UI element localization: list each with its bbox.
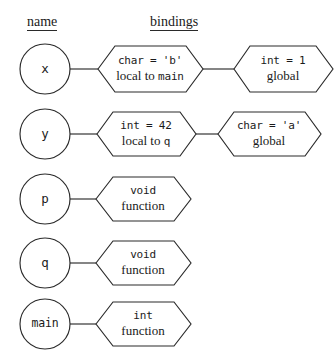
- binding-y-0-scope: local to q: [120, 133, 171, 149]
- binding-p-0-scope: function: [121, 198, 164, 213]
- binding-x-1-type: int = 1: [261, 55, 306, 68]
- column-header-name: name: [27, 14, 57, 31]
- binding-main-0-type: int: [121, 310, 164, 323]
- binding-x-0-scope: local to main: [116, 68, 184, 84]
- binding-q-0-scope: function: [121, 262, 164, 277]
- column-header-bindings: bindings: [150, 14, 198, 31]
- node-label-p: p: [41, 193, 49, 206]
- binding-q-0-type: void: [121, 249, 164, 262]
- binding-main-0-text: int function: [121, 310, 164, 338]
- binding-x-0-text: char = 'b' local to main: [116, 55, 184, 84]
- binding-y-1-type: char = 'a': [237, 120, 301, 133]
- binding-y-0-scope-ident: q: [164, 135, 170, 148]
- binding-p-0-text: void function: [121, 185, 164, 213]
- binding-main-0-scope: function: [121, 323, 164, 338]
- node-label-q: q: [41, 257, 49, 270]
- binding-x-0-scope-prefix: local to: [116, 68, 158, 83]
- node-label-x: x: [41, 63, 49, 76]
- binding-x-1-scope: global: [261, 68, 306, 83]
- binding-q-0-text: void function: [121, 249, 164, 277]
- binding-x-0-type: char = 'b': [116, 55, 184, 68]
- binding-y-0-text: int = 42 local to q: [120, 120, 171, 149]
- binding-x-1-text: int = 1 global: [261, 55, 306, 83]
- node-label-y: y: [41, 128, 49, 141]
- binding-y-1-scope: global: [237, 133, 301, 148]
- binding-y-0-scope-prefix: local to: [122, 133, 164, 148]
- node-label-main: main: [32, 318, 59, 330]
- binding-y-1-text: char = 'a' global: [237, 120, 301, 148]
- binding-x-0-scope-ident: main: [158, 70, 184, 83]
- binding-p-0-type: void: [121, 185, 164, 198]
- binding-diagram: name bindings x y p q main char = 'b' lo…: [0, 0, 334, 362]
- binding-y-0-type: int = 42: [120, 120, 171, 133]
